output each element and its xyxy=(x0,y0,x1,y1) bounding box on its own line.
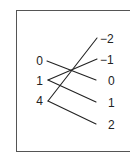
mapping-lines xyxy=(0,0,130,160)
line-4-to-2 xyxy=(48,101,96,124)
